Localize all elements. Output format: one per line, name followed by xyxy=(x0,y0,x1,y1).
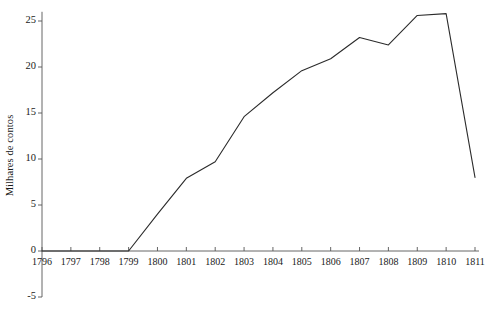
x-axis-tick-label: 1806 xyxy=(315,256,347,267)
x-axis-tick-label: 1799 xyxy=(113,256,145,267)
x-axis-tick-label: 1801 xyxy=(170,256,202,267)
x-axis-tick-label: 1811 xyxy=(459,256,491,267)
axes-group xyxy=(38,12,479,297)
x-axis-tick-label: 1810 xyxy=(430,256,462,267)
data-line-series xyxy=(42,14,475,251)
y-axis-tick-label: 10 xyxy=(10,152,36,163)
x-axis-tick-label: 1807 xyxy=(344,256,376,267)
y-axis-tick-label: 20 xyxy=(10,60,36,71)
x-axis-tick-label: 1804 xyxy=(257,256,289,267)
x-axis-tick-label: 1802 xyxy=(199,256,231,267)
x-axis-tick-label: 1800 xyxy=(141,256,173,267)
y-axis-tick-label: 5 xyxy=(10,198,36,209)
x-axis-tick-label: 1798 xyxy=(84,256,116,267)
y-axis-tick-label: -5 xyxy=(10,290,36,301)
x-axis-tick-label: 1805 xyxy=(286,256,318,267)
y-axis-tick-label: 0 xyxy=(10,244,36,255)
x-axis-tick-label: 1803 xyxy=(228,256,260,267)
chart-figure: Milhares de contos -50510152025 17961797… xyxy=(0,0,494,311)
x-axis-tick-label: 1796 xyxy=(26,256,58,267)
y-axis-tick-label: 25 xyxy=(10,14,36,25)
plot-area: -50510152025 179617971798179918001801180… xyxy=(0,0,494,311)
x-axis-tick-label: 1808 xyxy=(372,256,404,267)
y-axis-tick-label: 15 xyxy=(10,106,36,117)
x-axis-tick-label: 1809 xyxy=(401,256,433,267)
x-axis-tick-label: 1797 xyxy=(55,256,87,267)
data-series-group xyxy=(42,14,475,251)
